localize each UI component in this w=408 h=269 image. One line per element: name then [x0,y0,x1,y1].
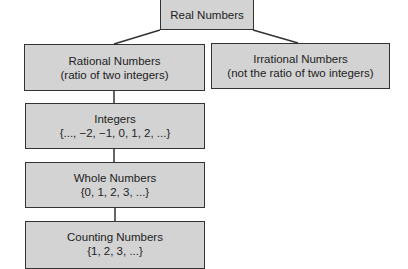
node-description: {0, 1, 2, 3, ...} [81,185,149,199]
node-counting-numbers: Counting Numbers {1, 2, 3, ...} [25,221,205,269]
node-whole-numbers: Whole Numbers {0, 1, 2, 3, ...} [25,162,205,208]
node-label: Irrational Numbers [253,52,348,66]
node-description: (ratio of two integers) [60,68,168,82]
node-label: Whole Numbers [74,171,156,185]
node-label: Counting Numbers [67,230,163,244]
node-label: Real Numbers [170,8,244,22]
edge-real-to-rational [114,30,160,44]
edge-real-to-irrational [253,30,298,43]
node-integers: Integers {..., −2, −1, 0, 1, 2, ...} [25,103,205,149]
node-description: {1, 2, 3, ...} [87,244,143,258]
node-label: Integers [94,112,136,126]
node-rational-numbers: Rational Numbers (ratio of two integers) [24,44,205,91]
node-description: (not the ratio of two integers) [227,66,373,80]
node-label: Rational Numbers [68,54,160,68]
node-irrational-numbers: Irrational Numbers (not the ratio of two… [211,43,390,89]
node-description: {..., −2, −1, 0, 1, 2, ...} [60,126,171,140]
node-real-numbers: Real Numbers [160,0,254,30]
